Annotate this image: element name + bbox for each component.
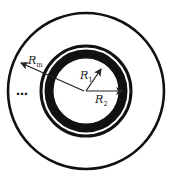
ellipsis-label: …	[16, 84, 28, 98]
concentric-circles-diagram: Rm R1 R2 …	[0, 0, 170, 180]
rm-label: Rm	[27, 54, 43, 69]
r2-label: R2	[94, 93, 108, 108]
r1-label: R1	[79, 69, 93, 84]
